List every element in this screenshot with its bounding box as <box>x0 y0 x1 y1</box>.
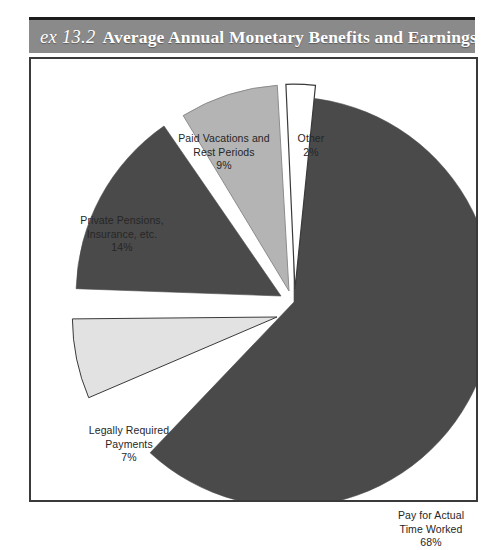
slice-label-paid-vacations-rest-periods: Paid Vacations and Rest Periods 9% <box>159 132 289 173</box>
exhibit-header-banner: ex 13.2Average Annual Monetary Benefits … <box>29 17 475 53</box>
chart-frame: Paid Vacations and Rest Periods 9% Other… <box>29 57 478 502</box>
exhibit-header-text: ex 13.2Average Annual Monetary Benefits … <box>40 26 475 47</box>
page-title: Average Annual Monetary Benefits and Ear… <box>103 26 475 46</box>
exhibit-number: ex 13.2 <box>40 26 96 46</box>
slice-label-other: Other 2% <box>271 132 351 159</box>
slice-label-legally-required-payments: Legally Required Payments 7% <box>64 424 194 465</box>
slice-label-pay-for-actual-time-worked: Pay for Actual Time Worked 68% <box>371 509 491 550</box>
slice-label-private-pensions-insurance: Private Pensions, Insurance, etc. 14% <box>57 214 187 255</box>
